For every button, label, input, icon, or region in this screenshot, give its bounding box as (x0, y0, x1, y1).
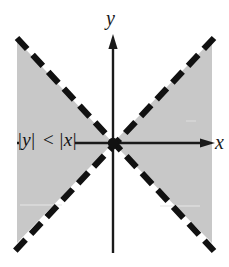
y-axis-label: y (106, 8, 115, 28)
less-than-sign: < (43, 129, 54, 150)
region-inequality-label: |y| < |x| (18, 130, 77, 149)
variable-x: x (64, 129, 73, 150)
math-figure-region-plot: y x |y| < |x| (0, 0, 229, 267)
x-axis-label: x (215, 132, 224, 152)
origin-marker (108, 138, 118, 148)
abs-bar-close-y: | (31, 129, 35, 150)
y-axis-arrowhead (108, 34, 117, 49)
variable-y: y (22, 129, 31, 150)
shaded-wedge-right (113, 40, 212, 243)
abs-bar-close-x: | (73, 129, 77, 150)
